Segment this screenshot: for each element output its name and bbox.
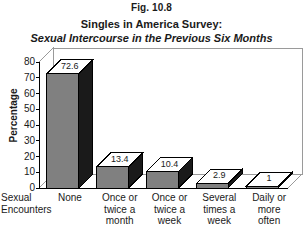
bar-front-face (47, 74, 79, 188)
x-category-label-line: week (142, 215, 198, 227)
y-tick-label: 50 (12, 104, 35, 114)
figure-container: Fig. 10.8 Singles in America Survey: Sex… (0, 0, 303, 237)
y-tick-label: 60 (12, 89, 35, 99)
x-category-label: Once ortwice amonth (92, 192, 148, 227)
bar-1 (47, 60, 93, 188)
y-tick-label: 80 (12, 57, 35, 67)
bar-value-label: 1 (253, 173, 285, 183)
y-tick-label: 70 (12, 73, 35, 83)
x-category-label-line: times a (191, 204, 247, 216)
x-category-label: Daily ormoreoften (241, 192, 297, 227)
x-category-label-line: twice a (142, 204, 198, 216)
bar-value-label: 72.6 (54, 61, 86, 71)
bar-front-face (147, 172, 179, 188)
y-tick-label: 40 (12, 120, 35, 130)
x-category-label: Once ortwice aweek (142, 192, 198, 227)
y-tick-label: 30 (12, 136, 35, 146)
x-category-label-line: None (42, 192, 98, 204)
bar-front-face (97, 167, 129, 188)
x-category-label: Severaltimes aweek (191, 192, 247, 227)
bar-value-label: 2.9 (203, 170, 235, 180)
y-tick-label: 10 (12, 167, 35, 177)
x-category-label-line: Several (191, 192, 247, 204)
bar-value-label: 13.4 (104, 154, 136, 164)
x-category-label-line: Once or (142, 192, 198, 204)
y-tick-label: 20 (12, 152, 35, 162)
x-category-label-line: twice a (92, 204, 148, 216)
x-category-label-line: Daily or (241, 192, 297, 204)
x-category-label: None (42, 192, 98, 204)
x-category-label-line: week (191, 215, 247, 227)
x-category-label-line: Once or (92, 192, 148, 204)
bar-value-label: 10.4 (154, 159, 186, 169)
bar-front-face (196, 183, 228, 188)
x-category-label-line: often (241, 215, 297, 227)
bar-side-face (79, 60, 93, 188)
x-category-label-line: more (241, 204, 297, 216)
x-axis-category-labels: NoneOnce ortwice amonthOnce ortwice awee… (0, 192, 303, 237)
x-category-label-line: month (92, 215, 148, 227)
